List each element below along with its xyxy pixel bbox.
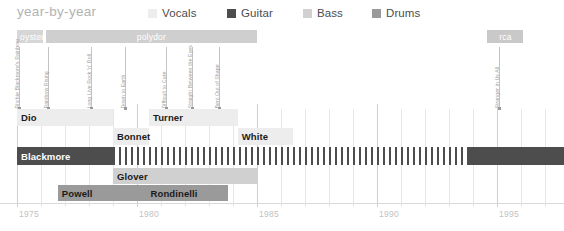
segment-label: Bonnet [113, 131, 150, 142]
timeline-plot: oysterpolydorrca Ritchie Blackmore's Rai… [0, 28, 564, 231]
segment-label: Powell [58, 188, 93, 199]
x-tick-major [137, 203, 138, 207]
x-tick-label: 1985 [259, 209, 279, 219]
x-tick-major [497, 203, 498, 207]
segment-label: Blackmore [17, 151, 70, 162]
x-tick-minor [281, 203, 282, 206]
legend-item-drums: Drums [372, 7, 420, 19]
x-tick-major [17, 203, 18, 207]
x-tick-minor [425, 203, 426, 206]
timeline-row-guitar-2: Blackmore [0, 147, 564, 165]
record-label-text: rca [499, 32, 511, 42]
album-marker: Difficult to Cure [166, 47, 167, 109]
x-axis-line [0, 203, 564, 204]
segment-powell: Powell [58, 185, 147, 201]
x-tick-minor [113, 203, 114, 206]
timeline-row-bass-3: Glover [0, 168, 564, 184]
segment-dio: Dio [17, 109, 113, 126]
record-label-text: polydor [137, 32, 166, 42]
album-title-label: Rainbow Rising [45, 72, 51, 109]
legend-swatch-icon [148, 9, 157, 18]
legend-item-guitar: Guitar [227, 7, 273, 19]
x-tick-minor [545, 203, 546, 206]
album-marker: Down to Earth [125, 47, 126, 109]
x-tick-major [257, 203, 258, 207]
segment-blackmore: Blackmore [17, 147, 113, 165]
record-label-polydor: polydor [46, 30, 257, 43]
x-tick-label: 1995 [499, 209, 519, 219]
segment-gap [113, 147, 468, 165]
segment-rondinelli: Rondinelli [147, 185, 229, 201]
album-marker: Bent Out of Shape [219, 47, 220, 109]
x-tick-label: 1990 [379, 209, 399, 219]
segment-white: White [238, 128, 293, 145]
album-title-label: Bent Out of Shape [215, 65, 221, 109]
x-tick-minor [329, 203, 330, 206]
album-title-label: Difficult to Cure [162, 72, 168, 109]
album-title-label: Long Live Rock 'n' Roll [88, 54, 94, 109]
legend-label: Guitar [241, 7, 273, 19]
x-tick-minor [449, 203, 450, 206]
timeline-row-vocals-0: DioTurner [0, 109, 564, 126]
legend-swatch-icon [227, 9, 236, 18]
segment-label: Rondinelli [147, 188, 198, 199]
page-title: year-by-year [17, 4, 96, 19]
x-tick-minor [209, 203, 210, 206]
album-title-label: Stranger in Us All [496, 67, 502, 109]
timeline-row-drums-4: PowellRondinelli [0, 185, 564, 201]
album-marker: Long Live Rock 'n' Roll [91, 47, 92, 109]
record-label-text: oyster [17, 32, 44, 42]
x-tick-minor [65, 203, 66, 206]
record-label-rca: rca [487, 30, 523, 43]
x-tick-minor [41, 203, 42, 206]
timeline-row-vocals-1: BonnetWhite [0, 128, 564, 145]
segment-glover: Glover [113, 168, 257, 184]
album-marker: Straight Between the Eyes [192, 47, 193, 109]
x-tick-label: 1980 [139, 209, 159, 219]
x-tick-minor [89, 203, 90, 206]
album-title-label: Down to Earth [121, 75, 127, 109]
x-tick-major [377, 203, 378, 207]
legend-label: Vocals [162, 7, 196, 19]
legend-item-vocals: Vocals [148, 7, 196, 19]
segment-turner: Turner [149, 109, 238, 126]
segment-gap [468, 147, 564, 165]
album-marker: Stranger in Us All [499, 47, 500, 109]
legend-item-bass: Bass [303, 7, 343, 19]
legend-label: Bass [317, 7, 343, 19]
segment-label: White [238, 131, 268, 142]
x-tick-minor [305, 203, 306, 206]
x-tick-minor [473, 203, 474, 206]
segment-label: Glover [113, 171, 148, 182]
legend-swatch-icon [303, 9, 312, 18]
album-title-label: Ritchie Blackmore's Rainbow [16, 39, 22, 109]
legend-label: Drums [386, 7, 420, 19]
album-marker: Rainbow Rising [48, 47, 49, 109]
chart-header: year-by-year VocalsGuitarBassDrums [0, 0, 564, 28]
segment-bonnet: Bonnet [113, 128, 149, 145]
x-tick-label: 1975 [19, 209, 39, 219]
x-tick-minor [233, 203, 234, 206]
album-marker: Ritchie Blackmore's Rainbow [19, 47, 20, 109]
x-tick-minor [185, 203, 186, 206]
album-title-label: Straight Between the Eyes [189, 45, 195, 109]
segment-label: Turner [149, 112, 183, 123]
x-tick-minor [161, 203, 162, 206]
x-tick-minor [353, 203, 354, 206]
x-tick-minor [521, 203, 522, 206]
x-tick-minor [401, 203, 402, 206]
segment-label: Dio [17, 112, 37, 123]
legend-swatch-icon [372, 9, 381, 18]
